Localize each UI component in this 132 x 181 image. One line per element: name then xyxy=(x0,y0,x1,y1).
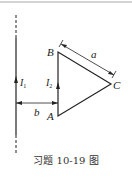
dimension-b xyxy=(16,101,58,105)
label-i1: I1 xyxy=(19,77,26,89)
triangle-loop xyxy=(56,52,111,116)
current-i1-arrow-icon xyxy=(14,76,18,83)
current-i2-arrow-icon xyxy=(56,82,60,89)
dimension-b-label: b xyxy=(34,106,40,118)
label-i2: I2 xyxy=(45,77,52,89)
dim-arrow-icon xyxy=(52,101,58,105)
vertex-c-label: C xyxy=(113,79,121,91)
vertex-a-label: A xyxy=(46,110,54,122)
vertex-b-label: B xyxy=(47,46,54,58)
dimension-a-label: a xyxy=(91,48,97,60)
dim-arrow-icon xyxy=(16,101,22,105)
dimension-a xyxy=(59,40,116,78)
figure-caption: 习题 10-19 图 xyxy=(0,152,132,167)
long-straight-wire xyxy=(14,15,18,155)
